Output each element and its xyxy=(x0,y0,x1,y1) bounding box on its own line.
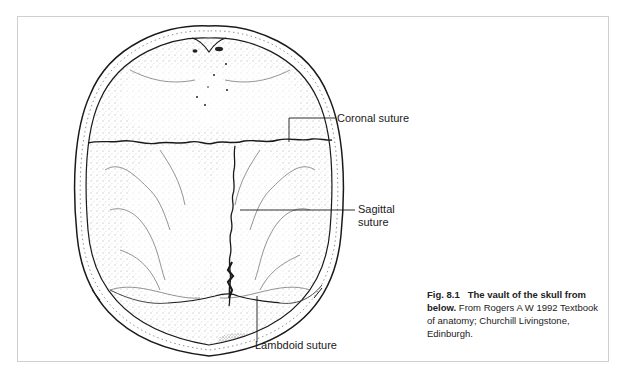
label-sagittal-line1: Sagittal xyxy=(358,203,395,216)
label-coronal-suture: Coronal suture xyxy=(337,112,409,125)
figure-caption: Fig. 8.1 The vault of the skull from bel… xyxy=(427,288,607,340)
label-sagittal-suture: Sagittal suture xyxy=(358,203,395,229)
figure-number: Fig. 8.1 xyxy=(427,289,460,300)
label-lambdoid-suture: Lambdoid suture xyxy=(255,339,337,352)
label-sagittal-line2: suture xyxy=(358,216,395,229)
